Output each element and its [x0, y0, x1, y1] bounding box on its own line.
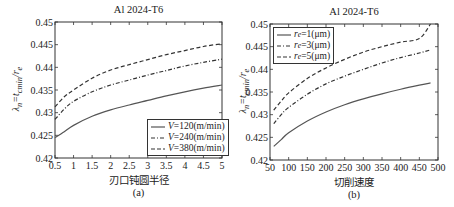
caption-a: (a): [55, 187, 222, 198]
legend-item-re1: re=1(μm): [277, 29, 330, 40]
chart-title-b: Al 2024-T6: [270, 6, 438, 17]
x-tick-label: 3: [145, 160, 150, 171]
x-tick-label: 1.5: [86, 160, 99, 171]
legend-item-v120: V=120(m/min): [151, 121, 225, 132]
x-tick-label: 4.5: [197, 160, 210, 171]
x-axis-label-b: 切削速度: [270, 174, 438, 189]
y-tick-label: 0.43: [251, 109, 269, 120]
y-tick-label: 0.425: [31, 130, 54, 141]
y-tick-label: 0.42: [251, 155, 269, 166]
legend-item-re3: re=3(μm): [277, 40, 330, 51]
x-tick-label: 300: [356, 162, 371, 173]
y-axis-label-a: λn=tcmin/re: [10, 54, 24, 124]
x-tick-label: 400: [393, 162, 408, 173]
y-tick-label: 0.445: [31, 39, 54, 50]
solid-line-icon: [151, 124, 165, 130]
x-tick-label: 2: [108, 160, 113, 171]
y-tick-label: 0.425: [246, 132, 269, 143]
x-tick-label: 5: [220, 160, 225, 171]
chart-panel-a: 0.511.522.533.544.550.420.4250.430.4350.…: [0, 0, 227, 207]
chart-title-a: Al 2024-T6: [55, 4, 222, 15]
x-tick-label: 4: [182, 160, 187, 171]
legend-a: V=120(m/min) V=240(m/min) V=380(m/min): [147, 119, 229, 156]
y-tick-label: 0.44: [251, 64, 269, 75]
chart-panel-b: 501001502002503003504004505000.420.4250.…: [227, 0, 454, 207]
x-tick-label: 250: [337, 162, 352, 173]
y-tick-label: 0.445: [246, 41, 269, 52]
solid-line-icon: [277, 32, 291, 38]
x-tick-label: 500: [431, 162, 446, 173]
y-tick-label: 0.43: [36, 107, 54, 118]
x-tick-label: 200: [319, 162, 334, 173]
y-tick-label: 0.45: [251, 19, 269, 30]
y-tick-label: 0.435: [31, 85, 54, 96]
x-axis-label-a: 刃口钝圆半径: [55, 172, 222, 187]
x-tick-label: 450: [412, 162, 427, 173]
caption-b: (b): [270, 189, 438, 200]
series-line: [274, 83, 431, 146]
dashed-line-icon: [151, 146, 165, 152]
dashdot-line-icon: [277, 43, 291, 49]
y-tick-label: 0.44: [36, 62, 54, 73]
legend-item-v380: V=380(m/min): [151, 143, 225, 154]
x-tick-label: 1: [71, 160, 76, 171]
y-tick-label: 0.42: [36, 153, 54, 164]
legend-b: re=1(μm) re=3(μm) re=5(μm): [273, 27, 334, 64]
x-tick-label: 100: [281, 162, 296, 173]
legend-item-v240: V=240(m/min): [151, 132, 225, 143]
y-tick-label: 0.45: [36, 17, 54, 28]
legend-item-re5: re=5(μm): [277, 51, 330, 62]
x-tick-label: 350: [375, 162, 390, 173]
x-tick-label: 2.5: [123, 160, 136, 171]
dashdot-line-icon: [151, 135, 165, 141]
dashed-line-icon: [277, 54, 291, 60]
x-tick-label: 150: [300, 162, 315, 173]
y-axis-label-b: λn=tcmin/re: [237, 56, 251, 126]
x-tick-label: 3.5: [160, 160, 173, 171]
